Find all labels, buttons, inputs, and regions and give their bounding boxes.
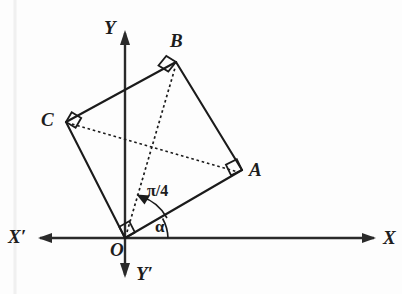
vertex-label-B: B xyxy=(170,31,183,50)
diagonal-OB xyxy=(127,68,175,232)
axis-label-x: X xyxy=(383,228,396,247)
vertex-label-O: O xyxy=(110,240,124,259)
y-axis-arrow-down-icon xyxy=(120,263,130,278)
edge-AB xyxy=(176,62,242,170)
y-axis-arrow-up-icon xyxy=(120,30,130,45)
vertex-label-C: C xyxy=(41,110,54,129)
axis-label-y-negative: Y′ xyxy=(136,264,153,283)
diagram-canvas: Y Y′ X X′ O A B C π/4 α xyxy=(0,0,402,294)
edge-BC xyxy=(66,62,176,122)
x-axis-arrow-right-icon xyxy=(362,233,376,243)
square-edges-group xyxy=(66,62,242,238)
edge-CO xyxy=(66,122,125,238)
geometry-figure xyxy=(0,0,402,294)
vertex-label-A: A xyxy=(249,160,262,179)
axis-group xyxy=(38,30,376,278)
diagonals-group xyxy=(72,68,238,232)
diagonal-CA xyxy=(72,124,238,172)
angle-label-pi-over-4: π/4 xyxy=(147,183,168,199)
axis-label-y: Y xyxy=(104,18,116,37)
axis-label-x-negative: X′ xyxy=(8,227,26,246)
x-axis-arrow-left-icon xyxy=(38,233,52,243)
angle-label-alpha: α xyxy=(155,218,165,235)
